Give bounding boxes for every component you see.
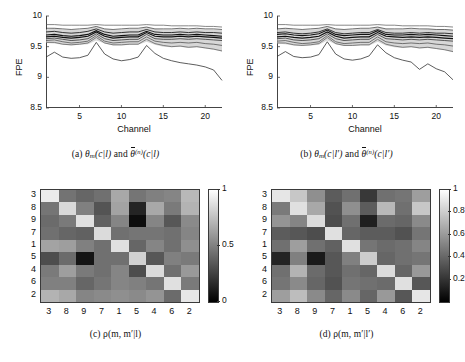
x-tick-label: 5	[68, 111, 92, 121]
caption-arg: (c|l′)	[324, 149, 342, 159]
heatmap-row-label: 2	[253, 289, 267, 299]
heatmap-cell	[94, 265, 112, 277]
heatmap-cell	[111, 290, 129, 302]
panel-c-caption: (c) ρ(m, m′|l)	[0, 329, 231, 339]
colorbar-tick-mark	[217, 189, 220, 190]
x-axis-label: Channel	[46, 124, 222, 134]
heatmap-cell	[342, 265, 360, 277]
heatmap-cell	[146, 202, 164, 214]
heatmap-col-label: 8	[58, 306, 74, 316]
heatmap-cell	[325, 252, 343, 264]
heatmap-cell	[41, 252, 59, 264]
heatmap-cell	[129, 227, 147, 239]
heatmap-cell	[290, 252, 308, 264]
heatmap-row-label: 8	[253, 202, 267, 212]
heatmap-cell	[59, 252, 77, 264]
heatmap-cell	[377, 240, 395, 252]
heatmap-cell	[94, 227, 112, 239]
heatmap-cell	[377, 202, 395, 214]
heatmap-col-label: 1	[111, 306, 127, 316]
heatmap-cell	[59, 290, 77, 302]
heatmap-cell	[129, 202, 147, 214]
heatmap-cell	[360, 202, 378, 214]
caption-theta-bar: θ	[130, 149, 135, 159]
heatmap-cell	[181, 240, 199, 252]
heatmap-cell	[377, 227, 395, 239]
heatmap-cell	[325, 265, 343, 277]
heatmap-row-label: 6	[253, 276, 267, 286]
heatmap-cell	[307, 290, 325, 302]
colorbar-tick-label: 0.6	[453, 228, 465, 238]
panel-d-heatmap: 38971546238971546210.80.60.40.2	[231, 181, 462, 326]
heatmap-cell	[146, 227, 164, 239]
y-tick-label: 8.5	[247, 102, 273, 112]
colorbar-tick-mark	[448, 189, 451, 190]
heatmap-cell	[59, 240, 77, 252]
heatmap-col-label: 8	[289, 306, 305, 316]
heatmap-cell	[111, 252, 129, 264]
heatmap-cell	[395, 190, 413, 202]
heatmap-cell	[412, 202, 430, 214]
heatmap-cell	[360, 265, 378, 277]
heatmap-cell	[342, 227, 360, 239]
heatmap-cell	[272, 290, 290, 302]
heatmap-cell	[412, 227, 430, 239]
heatmap-cell	[181, 290, 199, 302]
colorbar-tick-mark	[448, 256, 451, 257]
heatmap-cell	[76, 277, 94, 289]
heatmap-cell	[41, 202, 59, 214]
heatmap-cell	[272, 202, 290, 214]
colorbar-tick-label: 0	[222, 295, 227, 305]
heatmap-cell	[360, 190, 378, 202]
heatmap-cell	[41, 240, 59, 252]
heatmap-row-label: 1	[253, 239, 267, 249]
heatmap-cell	[412, 277, 430, 289]
heatmap-cell	[76, 202, 94, 214]
heatmap-cell	[59, 190, 77, 202]
heatmap-cell	[342, 215, 360, 227]
heatmap-cell	[129, 190, 147, 202]
heatmap-cell	[307, 240, 325, 252]
heatmap-cell	[111, 215, 129, 227]
heatmap-cell	[111, 265, 129, 277]
heatmap-cell	[412, 215, 430, 227]
x-tick-label: 5	[299, 111, 323, 121]
heatmap-cell	[94, 252, 112, 264]
y-axis-label: FPE	[14, 58, 24, 76]
heatmap-row-label: 7	[253, 227, 267, 237]
heatmap-cell	[395, 290, 413, 302]
heatmap-cell	[111, 190, 129, 202]
heatmap-cell	[76, 265, 94, 277]
panel-b-caption: (b) θm(c|l′) and θ(n)(c|l′)	[231, 148, 462, 160]
heatmap-cell	[146, 190, 164, 202]
panel-d: 38971546238971546210.80.60.40.2 (d) ρ(m,…	[231, 181, 462, 362]
heatmap-cell	[164, 252, 182, 264]
heatmap-row-label: 3	[22, 189, 36, 199]
heatmap-cell	[164, 265, 182, 277]
heatmap-col-label: 3	[41, 306, 57, 316]
heatmap-cell	[290, 290, 308, 302]
x-axis-label: Channel	[277, 124, 453, 134]
heatmap-cell	[181, 202, 199, 214]
heatmap-cell	[342, 240, 360, 252]
data-series-line	[277, 25, 453, 27]
heatmap-cell	[307, 215, 325, 227]
heatmap-col-label: 6	[395, 306, 411, 316]
y-tick-label: 10	[16, 10, 42, 20]
heatmap-cell	[94, 202, 112, 214]
heatmap-cell	[290, 227, 308, 239]
heatmap-cell	[164, 227, 182, 239]
heatmap-col-label: 6	[164, 306, 180, 316]
heatmap-cell	[342, 202, 360, 214]
heatmap-cell	[325, 290, 343, 302]
data-series-line	[46, 25, 222, 27]
colorbar	[208, 189, 219, 303]
heatmap-cell	[94, 290, 112, 302]
heatmap-cell	[164, 202, 182, 214]
heatmap-cell	[395, 227, 413, 239]
panel-a-caption: (a) θm(c|l) and θ(n)(c|l)	[0, 148, 231, 160]
x-tick-label: 15	[151, 111, 175, 121]
heatmap-cell	[360, 252, 378, 264]
heatmap-cell	[272, 240, 290, 252]
colorbar-tick-label: 0.2	[453, 273, 465, 283]
